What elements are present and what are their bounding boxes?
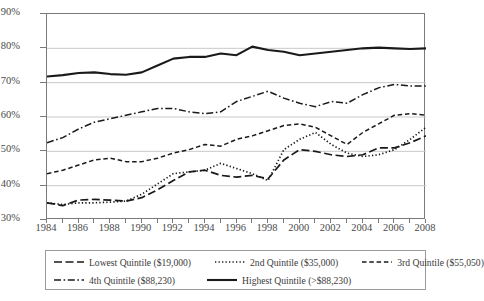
x-axis-tick-label: 1986 — [61, 222, 95, 234]
legend-item[interactable]: 3rd Quintile ($55,050) — [354, 257, 484, 268]
series-line-2 — [47, 114, 426, 174]
x-axis-tick-label: 1988 — [92, 222, 126, 234]
x-axis-tick-mark — [314, 219, 315, 223]
series-line-1 — [47, 127, 426, 204]
x-axis-tick-label: 1992 — [155, 222, 189, 234]
x-axis-tick-label: 2004 — [345, 222, 379, 234]
y-axis-tick-label: 90% — [0, 7, 20, 17]
x-axis-tick-mark — [172, 219, 173, 223]
x-axis-tick-mark — [204, 219, 205, 223]
x-axis-tick-mark — [188, 219, 189, 223]
x-axis-tick-mark — [125, 219, 126, 223]
x-axis-tick-mark — [378, 219, 379, 223]
plot-area — [46, 13, 425, 219]
x-axis-tick-label: 2008 — [408, 222, 442, 234]
legend-line-swatch — [362, 257, 392, 267]
legend-row: Lowest Quintile ($19,000)2nd Quintile ($… — [46, 253, 425, 271]
x-axis-tick-label: 1984 — [29, 222, 63, 234]
legend-label: Lowest Quintile ($19,000) — [89, 257, 191, 268]
x-axis-tick-label: 1998 — [250, 222, 284, 234]
series-lines — [47, 14, 426, 220]
x-axis-tick-mark — [299, 219, 300, 223]
y-axis-tick-label: 30% — [0, 213, 20, 223]
legend-label: Highest Quintile (>$88,230) — [242, 275, 351, 286]
x-axis-tick-mark — [109, 219, 110, 223]
x-axis-tick-mark — [409, 219, 410, 223]
legend-label: 2nd Quintile ($35,000) — [250, 257, 338, 268]
legend-line-swatch — [54, 257, 84, 267]
x-axis-tick-mark — [220, 219, 221, 223]
x-axis-tick-mark — [236, 219, 237, 223]
legend-line-swatch — [215, 257, 245, 267]
legend-item[interactable]: Lowest Quintile ($19,000) — [46, 257, 191, 268]
x-axis-tick-mark — [330, 219, 331, 223]
legend-item[interactable]: Highest Quintile (>$88,230) — [199, 275, 351, 286]
x-axis-tick-mark — [251, 219, 252, 223]
x-axis-tick-mark — [346, 219, 347, 223]
x-axis-tick-label: 2006 — [376, 222, 410, 234]
legend-item[interactable]: 4th Quintile ($88,230) — [46, 275, 175, 286]
legend-row: 4th Quintile ($88,230)Highest Quintile (… — [46, 271, 425, 289]
series-line-4 — [47, 47, 426, 77]
y-axis-tick-label: 60% — [0, 110, 20, 120]
y-axis-tick-label: 70% — [0, 76, 20, 86]
x-axis-tick-mark — [157, 219, 158, 223]
legend-line-swatch — [207, 275, 237, 285]
y-axis-tick-label: 40% — [0, 179, 20, 189]
y-axis-tick-label: 80% — [0, 41, 20, 51]
legend-label: 4th Quintile ($88,230) — [89, 275, 175, 286]
y-axis-tick-label: 50% — [0, 144, 20, 154]
x-axis-tick-label: 2002 — [313, 222, 347, 234]
legend-line-swatch — [54, 275, 84, 285]
legend-item[interactable]: 2nd Quintile ($35,000) — [207, 257, 338, 268]
chart-legend: Lowest Quintile ($19,000)2nd Quintile ($… — [45, 250, 426, 290]
x-axis-tick-mark — [425, 219, 426, 223]
x-axis-tick-mark — [93, 219, 94, 223]
x-axis-tick-label: 1996 — [219, 222, 253, 234]
x-axis-tick-label: 2000 — [282, 222, 316, 234]
series-line-0 — [47, 136, 426, 206]
x-axis-tick-mark — [283, 219, 284, 223]
x-axis-tick-mark — [78, 219, 79, 223]
x-axis-tick-mark — [46, 219, 47, 223]
series-line-3 — [47, 84, 426, 142]
x-axis-tick-mark — [267, 219, 268, 223]
x-axis-tick-label: 1994 — [187, 222, 221, 234]
x-axis-tick-mark — [362, 219, 363, 223]
x-axis-tick-mark — [141, 219, 142, 223]
x-axis-tick-label: 1990 — [124, 222, 158, 234]
x-axis-tick-mark — [62, 219, 63, 223]
x-axis-tick-mark — [393, 219, 394, 223]
legend-label: 3rd Quintile ($55,050) — [397, 257, 484, 268]
